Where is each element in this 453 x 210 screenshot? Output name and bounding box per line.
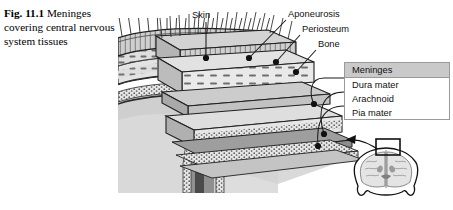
anatomical-illustration: Skin Aponeurosis Periosteum Bone Meninge… [118, 0, 453, 210]
stepped-block-group [156, 12, 364, 184]
label-periosteum: Periosteum [302, 24, 349, 34]
dot-aponeurosis [246, 55, 252, 61]
label-aponeurosis: Aponeurosis [288, 9, 340, 19]
dot-skin [203, 55, 209, 61]
figure-root: Fig. 11.1 Meninges covering central nerv… [0, 0, 453, 210]
dot-arachnoid [321, 131, 327, 137]
dot-periosteum [273, 59, 279, 65]
meninges-item-pia: Pia mater [345, 106, 449, 120]
meninges-item-arachnoid: Arachnoid [345, 92, 449, 106]
meninges-legend-box: Meninges Dura mater Arachnoid Pia mater [344, 62, 450, 120]
meninges-item-dura: Dura mater [345, 78, 449, 92]
meninges-header: Meninges [345, 63, 449, 78]
figure-number: Fig. 11.1 [4, 7, 44, 19]
figure-caption: Fig. 11.1 Meninges covering central nerv… [4, 6, 132, 49]
dot-bone [293, 69, 299, 75]
label-bone: Bone [318, 39, 340, 49]
brain-inset-group [346, 135, 418, 195]
dot-pia [315, 143, 321, 149]
label-skin: Skin [192, 10, 210, 20]
dot-dura [311, 101, 317, 107]
